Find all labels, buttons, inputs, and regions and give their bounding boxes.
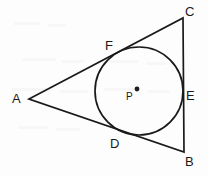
vertex-label-b: B [185, 155, 194, 168]
center-label-p: P [126, 92, 133, 102]
center-point-dot [135, 87, 140, 92]
tangent-label-f: F [105, 39, 113, 52]
vertex-label-a: A [12, 92, 21, 105]
tangent-label-e: E [186, 89, 195, 102]
vertex-label-c: C [185, 5, 194, 18]
geometry-canvas [0, 0, 208, 176]
tangent-label-d: D [110, 137, 119, 150]
geometry-figure: A B C D E F P [0, 0, 208, 176]
